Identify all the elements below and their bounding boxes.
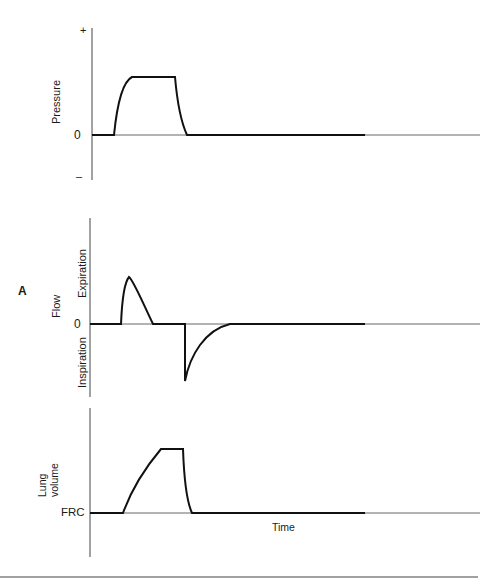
volume-axis-label-line1: Lung bbox=[36, 474, 48, 497]
pressure-tick-minus: – bbox=[76, 170, 82, 182]
flow-axis-label: Flow bbox=[50, 295, 62, 318]
volume-panel bbox=[90, 408, 480, 557]
time-axis-label: Time bbox=[272, 521, 295, 533]
flow-tick-zero: 0 bbox=[74, 317, 81, 331]
flow-expiration-label: Expiration bbox=[76, 249, 88, 298]
pressure-axis-label: Pressure bbox=[50, 80, 62, 124]
flow-inspiration-label: Inspiration bbox=[76, 337, 88, 388]
panel-label: A bbox=[18, 284, 27, 298]
diagram-canvas bbox=[0, 0, 494, 586]
volume-trace bbox=[90, 449, 365, 513]
pressure-tick-plus: + bbox=[80, 24, 86, 36]
pressure-trace bbox=[92, 77, 365, 135]
volume-tick-frc: FRC bbox=[61, 506, 85, 518]
pressure-panel bbox=[92, 28, 480, 180]
flow-trace bbox=[90, 277, 365, 381]
pressure-tick-zero: 0 bbox=[74, 128, 81, 142]
flow-panel bbox=[90, 218, 480, 397]
volume-axis-label-line2: volume bbox=[48, 463, 60, 497]
